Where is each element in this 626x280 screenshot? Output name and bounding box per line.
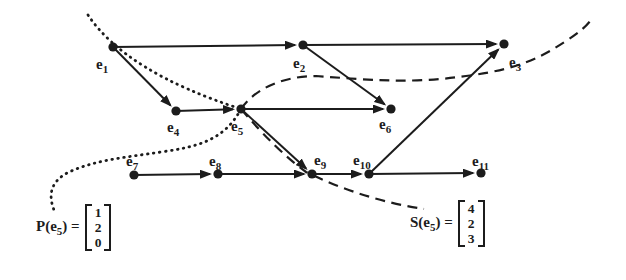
past-cone-vector: 1 2 0 (85, 204, 112, 251)
edge-e4-e5 (176, 109, 233, 111)
past-vector-values: 1 2 0 (92, 204, 105, 251)
future-vector-value: 3 (468, 231, 475, 246)
right-bracket (104, 204, 111, 251)
node-e5 (236, 104, 245, 113)
node-e6 (386, 104, 395, 113)
past-label-suffix: ) = (62, 218, 79, 234)
node-e3 (499, 39, 508, 48)
edge-e10-e11 (369, 173, 473, 174)
figure-event-graph: e1e2e3e4e5e6e7e8e9e10e11 P(e5) = 1 2 0 S… (0, 0, 626, 280)
edge-e2-e3 (303, 44, 496, 45)
node-label-e11: e11 (472, 153, 489, 172)
node-label-e1: e1 (96, 56, 108, 75)
node-label-e5: e5 (231, 118, 244, 137)
node-e9 (307, 169, 316, 178)
edge-e2-e6 (303, 45, 385, 104)
edge-e5-e9 (241, 109, 306, 169)
graph-edges (113, 44, 498, 175)
past-vector-value: 0 (95, 235, 102, 250)
node-label-e3: e3 (509, 54, 522, 73)
edge-e7-e8 (134, 174, 210, 175)
future-vector-value: 2 (468, 216, 475, 231)
past-cone-label: P(e5) = (36, 218, 80, 237)
past-vector-value: 2 (95, 220, 102, 235)
node-label-e9: e9 (314, 152, 327, 171)
future-cone-formula: S(e5) = 4 2 3 (410, 200, 485, 247)
past-cone-formula: P(e5) = 1 2 0 (36, 204, 111, 251)
future-vector-values: 4 2 3 (465, 200, 478, 247)
future-label-suffix: ) = (436, 214, 453, 230)
node-label-e8: e8 (209, 153, 222, 172)
future-label-prefix: S(e (410, 214, 430, 230)
left-bracket (85, 204, 92, 251)
future-vector-value: 4 (468, 201, 475, 216)
node-e4 (171, 106, 180, 115)
curve-future-cone-lower (241, 109, 424, 209)
future-cone-label: S(e5) = (410, 214, 453, 233)
right-bracket (478, 200, 485, 247)
node-e1 (108, 42, 117, 51)
node-label-e4: e4 (167, 119, 180, 138)
past-label-prefix: P(e (36, 218, 57, 234)
left-bracket (458, 200, 465, 247)
future-cone-vector: 4 2 3 (458, 200, 485, 247)
edge-e1-e2 (113, 45, 295, 47)
node-label-e10: e10 (353, 152, 371, 171)
curve-past-cone-upper (88, 15, 241, 109)
past-vector-value: 1 (95, 205, 102, 220)
node-label-e6: e6 (379, 116, 392, 135)
node-label-e2: e2 (293, 55, 306, 74)
node-e2 (298, 40, 307, 49)
